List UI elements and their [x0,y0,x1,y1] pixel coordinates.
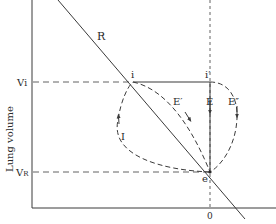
label-r: R [97,30,106,43]
label-curve-i: I [121,131,125,142]
label-point-i-prime: i′ [205,69,211,80]
label-point-e: e [202,173,208,184]
label-curve-e: E [206,96,213,107]
curve-e-prime-arrow [185,112,190,120]
pressure-volume-diagram: R Vi VR i i′ e I E′ E E″ 0 Lung volume P… [0,0,276,224]
label-curve-e-prime: E′ [173,96,183,107]
curve-i [117,82,210,172]
relaxation-line-r [58,0,245,219]
label-curve-e-double-prime: E″ [228,96,239,107]
x-tick-zero: 0 [207,211,213,221]
label-vi: Vi [16,77,27,88]
curve-i-arrow [119,116,120,124]
label-vr: VR [15,167,29,178]
y-axis-label: Lung volume [4,106,15,172]
point-e-marker [208,170,211,173]
label-point-i: i [131,69,134,80]
x-axis-label: Pressure, cm H2O [85,222,178,224]
curve-e-prime [133,82,210,172]
